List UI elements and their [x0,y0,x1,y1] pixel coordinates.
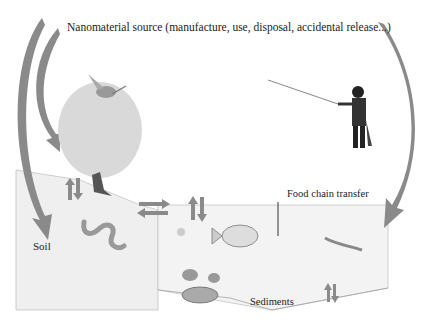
diagram-canvas [0,0,422,322]
left-inner-arrow-icon [36,28,60,152]
sediments-label: Sediments [250,296,294,307]
food-chain-label: Food chain transfer [287,188,369,199]
fisherman-icon [268,80,372,148]
soil-label: Soil [33,240,51,252]
plankton-icon [177,228,185,236]
nanomaterial-source-title: Nanomaterial source (manufacture, use, d… [67,21,391,33]
right-arrow-icon [378,22,415,228]
